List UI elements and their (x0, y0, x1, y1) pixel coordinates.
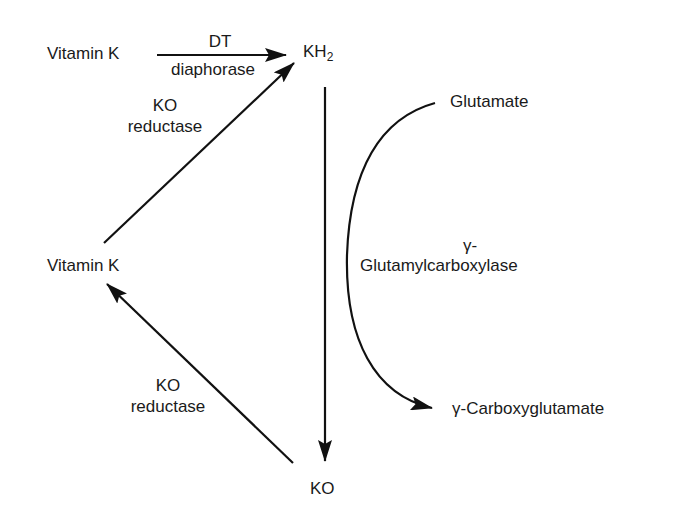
node-vitamin-k-left: Vitamin K (47, 256, 119, 276)
node-carboxyglutamate: γ-Carboxyglutamate (452, 399, 604, 419)
edge-ko-reductase-bottom-line2: reductase (118, 397, 218, 417)
edge-ko-reductase-top-line2: reductase (115, 117, 215, 137)
node-kh2-subscript: 2 (327, 50, 334, 64)
node-ko: KO (310, 479, 335, 499)
vitamin-k-cycle-diagram: Vitamin K KH2 DT diaphorase KO reductase… (0, 0, 677, 513)
edge-dt-label-line1: DT (160, 32, 280, 52)
node-glutamate: Glutamate (450, 92, 528, 112)
edge-ko-reductase-top-line1: KO (115, 96, 215, 116)
edge-carboxylase-line2: Glutamylcarboxylase (360, 256, 518, 276)
ko-reductase-top-arrow (104, 63, 294, 243)
edge-dt-label-line2: diaphorase (158, 60, 268, 80)
node-kh2-main: KH (303, 42, 327, 61)
node-kh2: KH2 (303, 42, 333, 67)
ko-reductase-bottom-arrow (107, 284, 293, 463)
edge-carboxylase-line1: γ- (440, 236, 500, 256)
node-vitamin-k-top: Vitamin K (47, 44, 119, 64)
edge-ko-reductase-bottom-line1: KO (118, 376, 218, 396)
